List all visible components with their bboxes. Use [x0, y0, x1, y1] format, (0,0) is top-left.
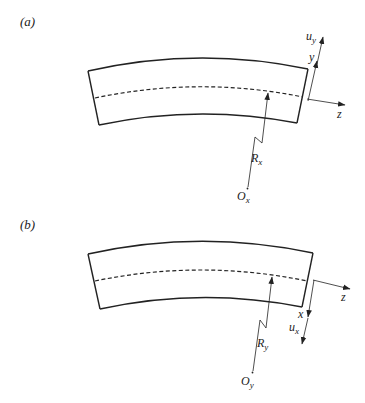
radius-a-label: Rx: [250, 151, 262, 167]
beam-b: [88, 241, 313, 309]
axes-a: [307, 37, 345, 105]
radius-a-line: [248, 93, 268, 187]
axis-b-z: [313, 280, 350, 289]
beam-a: [88, 58, 308, 125]
axis-a-z-label: z: [336, 107, 342, 121]
axis-a-z: [307, 99, 345, 105]
panel-a: (a) Rx Ox z y uy: [20, 14, 345, 205]
beam-b-neutral-axis: [95, 270, 307, 281]
origin-a-point: [247, 188, 249, 190]
origin-a-label: Ox: [237, 189, 250, 205]
axis-b-x-label: x: [297, 307, 304, 321]
radius-b-label: Ry: [256, 336, 268, 352]
axis-b-z-label: z: [340, 290, 346, 304]
beam-a-neutral-axis: [95, 87, 303, 98]
axis-b-x: [308, 280, 314, 317]
beam-b-top-edge: [88, 241, 313, 254]
beam-b-left-edge: [88, 254, 100, 309]
beam-a-top-edge: [88, 58, 308, 71]
axis-a-y: [308, 61, 317, 101]
beam-a-bottom-edge: [99, 114, 297, 125]
radius-b-line: [253, 277, 272, 371]
panel-a-label: (a): [20, 14, 35, 29]
axis-b-ux: [302, 318, 308, 344]
axis-b-ux-label: ux: [289, 320, 299, 336]
beam-bending-diagram: (a) Rx Ox z y uy (b): [0, 0, 365, 403]
radius-b: [253, 277, 272, 371]
origin-b-label: Oy: [241, 374, 254, 390]
panel-b: (b) Ry Oy z x ux: [20, 217, 350, 390]
beam-b-bottom-edge: [100, 297, 302, 309]
radius-a: [248, 93, 268, 187]
axis-a-uy: [317, 37, 323, 64]
origin-b-point: [252, 372, 254, 374]
panel-b-label: (b): [20, 217, 35, 232]
axis-a-y-label: y: [308, 50, 315, 64]
axis-a-uy-label: uy: [306, 29, 316, 45]
